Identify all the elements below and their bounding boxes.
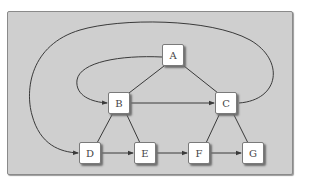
- edge-b-e: [126, 113, 140, 143]
- node-c: C: [215, 92, 237, 114]
- node-f: F: [188, 142, 210, 164]
- node-e: E: [134, 142, 156, 164]
- edge-c-d-curved: [29, 22, 273, 153]
- edge-c-f: [206, 113, 220, 143]
- edge-b-d: [97, 113, 113, 143]
- edge-a-c: [184, 66, 218, 93]
- node-d: D: [79, 142, 101, 164]
- node-a: A: [162, 44, 184, 66]
- edge-a-b: [129, 66, 164, 93]
- node-g: G: [242, 142, 264, 164]
- edge-c-g: [233, 113, 248, 143]
- node-b: B: [108, 92, 130, 114]
